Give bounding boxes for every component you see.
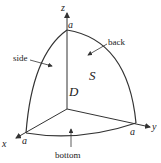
back-face-label: back (108, 37, 125, 47)
side-arc (26, 30, 67, 133)
x-axis-label: x (1, 138, 7, 149)
region-label: D (68, 84, 79, 99)
z-axis-label: z (60, 2, 65, 13)
back-pointer-arrow (88, 44, 107, 55)
z-intercept-label: a (68, 19, 73, 30)
surface-label: S (89, 68, 96, 83)
bottom-face-label: bottom (55, 150, 81, 160)
back-arc (67, 30, 136, 123)
octant-diagram: z x y a a a S D side back bottom (0, 0, 161, 163)
x-axis (16, 109, 67, 138)
side-face-label: side (13, 53, 28, 63)
y-axis (67, 109, 150, 127)
x-intercept-label: a (22, 135, 27, 146)
y-intercept-label: a (130, 126, 135, 137)
bottom-arc (26, 123, 136, 136)
y-axis-label: y (151, 121, 157, 132)
